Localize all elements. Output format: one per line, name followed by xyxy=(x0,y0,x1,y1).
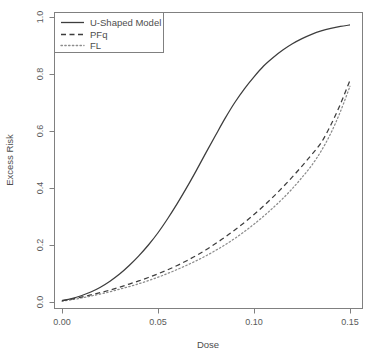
y-axis-ticks xyxy=(50,18,55,303)
y-tick-label-4: 0.8 xyxy=(35,68,45,81)
x-tick-label-3: 0.15 xyxy=(341,317,359,327)
x-axis-title: Dose xyxy=(197,339,219,350)
y-tick-label-1: 0.2 xyxy=(35,239,45,252)
y-tick-label-5: 1.0 xyxy=(35,11,45,24)
legend-label-0: U-Shaped Model xyxy=(90,17,161,28)
y-axis-title: Excess Risk xyxy=(4,134,15,186)
legend: U-Shaped Model PFq FL xyxy=(55,13,164,53)
y-tick-label-0: 0.0 xyxy=(35,296,45,309)
curve-u-shaped-model xyxy=(62,25,350,301)
legend-label-2: FL xyxy=(90,40,101,51)
plot-frame xyxy=(55,13,363,309)
x-tick-label-1: 0.05 xyxy=(149,317,167,327)
x-axis-ticks xyxy=(63,309,351,314)
x-tick-label-0: 0.00 xyxy=(53,317,71,327)
legend-label-1: PFq xyxy=(90,29,107,40)
x-tick-label-2: 0.10 xyxy=(245,317,263,327)
dose-response-plot: 0.00 0.05 0.10 0.15 0.0 0.2 0.4 0.6 0.8 … xyxy=(0,0,371,360)
y-tick-label-2: 0.4 xyxy=(35,182,45,195)
curve-fl xyxy=(62,86,350,301)
chart-figure: 0.00 0.05 0.10 0.15 0.0 0.2 0.4 0.6 0.8 … xyxy=(0,0,371,360)
y-tick-label-3: 0.6 xyxy=(35,125,45,138)
curve-pfq xyxy=(62,80,350,301)
